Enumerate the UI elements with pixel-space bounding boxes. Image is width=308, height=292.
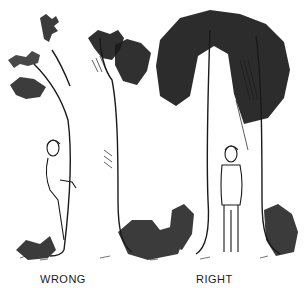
caption-wrong: WRONG (40, 273, 86, 285)
right-tree-foliage (156, 10, 290, 124)
caption-right: RIGHT (196, 273, 233, 285)
person-peeking-wrong (46, 140, 76, 240)
undergrowth (16, 204, 298, 260)
left-tree-foliage (8, 14, 151, 99)
illustration (0, 0, 308, 292)
person-standing-right (221, 146, 242, 252)
